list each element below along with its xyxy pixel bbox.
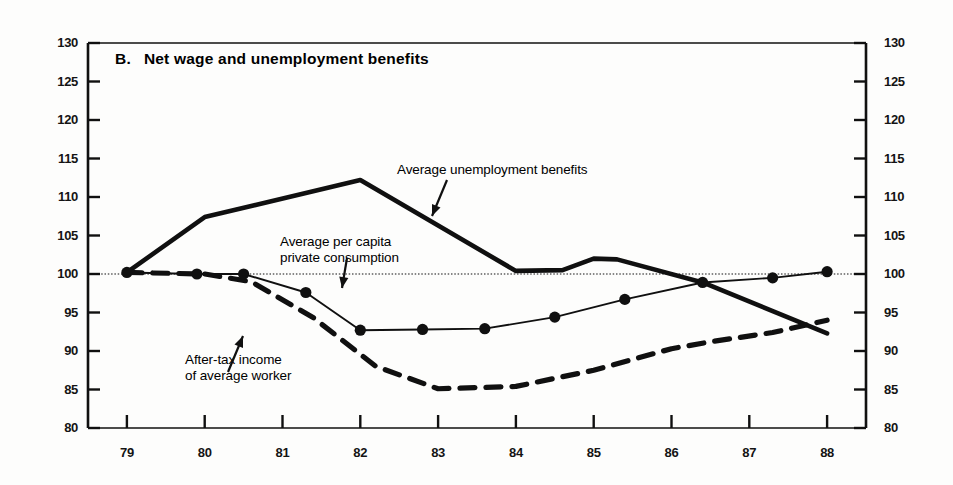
- y-tick-label-left: 120: [44, 112, 78, 127]
- y-tick-label-right: 90: [884, 343, 924, 358]
- series-marker: [238, 268, 249, 279]
- series-marker: [355, 325, 366, 336]
- series-lines: [127, 180, 827, 389]
- axes: [88, 43, 866, 428]
- y-tick-label-left: 125: [44, 74, 78, 89]
- y-tick-label-left: 80: [44, 420, 78, 435]
- x-tick-label: 80: [185, 445, 225, 460]
- plot-area: [0, 0, 953, 485]
- y-tick-label-right: 105: [884, 228, 924, 243]
- series-marker: [549, 312, 560, 323]
- y-tick-label-right: 110: [884, 189, 924, 204]
- series-line-0: [127, 180, 827, 333]
- annotation-arrows: [228, 180, 447, 372]
- y-tick-label-right: 80: [884, 420, 924, 435]
- y-tick-label-left: 90: [44, 343, 78, 358]
- x-tick-label: 84: [496, 445, 536, 460]
- series-marker: [417, 324, 428, 335]
- x-tick-label: 87: [729, 445, 769, 460]
- y-tick-label-left: 85: [44, 382, 78, 397]
- x-tick-label: 81: [263, 445, 303, 460]
- y-tick-label-left: 115: [44, 151, 78, 166]
- arrow-consumption-head: [339, 276, 348, 288]
- series-marker: [822, 266, 833, 277]
- series-marker: [191, 268, 202, 279]
- y-tick-label-left: 95: [44, 305, 78, 320]
- y-tick-label-right: 130: [884, 35, 924, 50]
- x-tick-label: 83: [418, 445, 458, 460]
- y-tick-label-left: 105: [44, 228, 78, 243]
- series-marker: [619, 294, 630, 305]
- y-tick-label-right: 120: [884, 112, 924, 127]
- y-tick-label-right: 115: [884, 151, 924, 166]
- x-tick-label: 88: [807, 445, 847, 460]
- series-marker: [121, 267, 132, 278]
- series-marker: [697, 277, 708, 288]
- y-tick-label-left: 110: [44, 189, 78, 204]
- series-marker: [479, 323, 490, 334]
- series-markers: [121, 266, 832, 336]
- x-tick-label: 82: [340, 445, 380, 460]
- chart-figure: B.Net wage and unemployment benefits Ave…: [0, 0, 953, 485]
- x-tick-label: 86: [652, 445, 692, 460]
- y-tick-label-right: 95: [884, 305, 924, 320]
- arrow-aftertax-head: [235, 336, 243, 348]
- series-marker: [300, 287, 311, 298]
- y-tick-label-right: 125: [884, 74, 924, 89]
- y-tick-label-left: 100: [44, 266, 78, 281]
- x-tick-label: 79: [107, 445, 147, 460]
- y-tick-label-right: 100: [884, 266, 924, 281]
- x-tick-label: 85: [574, 445, 614, 460]
- y-tick-label-right: 85: [884, 382, 924, 397]
- y-tick-label-left: 130: [44, 35, 78, 50]
- series-marker: [767, 272, 778, 283]
- arrow-benefits-head: [432, 204, 440, 216]
